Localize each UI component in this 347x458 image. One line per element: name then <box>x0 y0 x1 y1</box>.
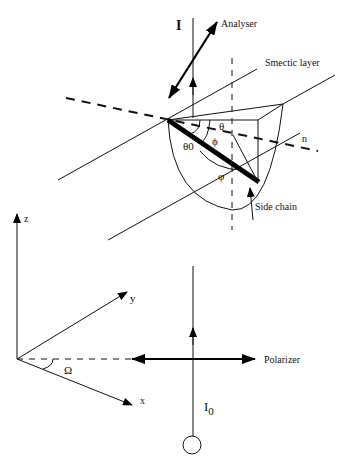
label-director: n <box>302 133 307 144</box>
label-axis-x: x <box>140 395 145 406</box>
label-analyser: Analyser <box>221 18 258 29</box>
liquid-crystal-optics-diagram: I Analyser Smectic layer n θ ϕ θ0 φ Side… <box>0 0 347 458</box>
label-axis-y: y <box>130 292 136 304</box>
label-phi-upper: ϕ <box>212 135 218 147</box>
label-varphi: φ <box>218 170 224 182</box>
label-intensity-in: I0 <box>204 399 214 417</box>
label-side-chain: Side chain <box>255 201 297 212</box>
label-theta0: θ0 <box>183 140 194 152</box>
label-omega: Ω <box>64 364 72 376</box>
label-theta: θ <box>219 120 224 132</box>
label-axis-z: z <box>24 213 29 224</box>
coordinate-axes <box>17 214 132 405</box>
label-intensity-out: I <box>176 18 181 33</box>
label-polarizer: Polarizer <box>264 354 301 365</box>
side-chain-pointer <box>250 188 253 220</box>
label-smectic-layer: Smectic layer <box>265 57 320 68</box>
smectic-layer-planes <box>58 69 335 240</box>
